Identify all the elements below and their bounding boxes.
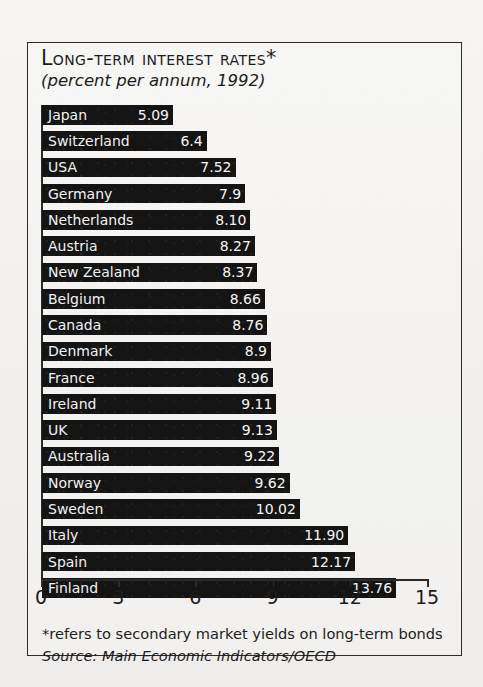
bar: Canada8.76 — [42, 315, 267, 335]
bar: Italy11.90 — [42, 526, 348, 546]
bar-category-label: France — [48, 371, 95, 385]
bar-category-label: Denmark — [48, 344, 112, 358]
bar: Ireland9.11 — [42, 394, 276, 414]
bar-category-label: Norway — [48, 476, 101, 490]
chart-subtitle: (percent per annum, 1992) — [41, 71, 453, 92]
bar-category-label: Australia — [48, 449, 110, 463]
bar-row: Sweden10.02 — [42, 499, 449, 519]
bar: Netherlands8.10 — [42, 210, 250, 230]
x-axis-tick-label: 0 — [35, 588, 47, 607]
bar-series: Japan5.09Switzerland6.4USA7.52Germany7.9… — [42, 105, 449, 579]
bar-row: Spain12.17 — [42, 552, 449, 572]
bar-value-label: 8.96 — [237, 371, 268, 385]
bar-value-label: 11.90 — [304, 528, 344, 542]
x-axis-line — [41, 579, 427, 581]
title-block: Long-term Interest Rates* (percent per a… — [41, 47, 453, 92]
bar: New Zealand8.37 — [42, 263, 257, 283]
bar-value-label: 8.9 — [245, 344, 267, 358]
bar-value-label: 9.11 — [241, 397, 272, 411]
bar-category-label: Switzerland — [48, 134, 130, 148]
bar: Belgium8.66 — [42, 289, 265, 309]
bar: France8.96 — [42, 368, 273, 388]
bar-category-label: Spain — [48, 555, 87, 569]
bar-category-label: UK — [48, 423, 67, 437]
x-axis-tick-label: 9 — [267, 588, 279, 607]
bar-row: New Zealand8.37 — [42, 263, 449, 283]
x-axis-tick-label: 6 — [189, 588, 201, 607]
bar: Norway9.62 — [42, 473, 290, 493]
bar-category-label: USA — [48, 160, 77, 174]
bar-row: Germany7.9 — [42, 184, 449, 204]
bar: Japan5.09 — [42, 105, 173, 125]
bar-value-label: 6.4 — [180, 134, 202, 148]
bar: Denmark8.9 — [42, 342, 271, 362]
bar-row: Netherlands8.10 — [42, 210, 449, 230]
bar-row: UK9.13 — [42, 420, 449, 440]
x-axis-tick-label: 12 — [338, 588, 362, 607]
plot-area: Japan5.09Switzerland6.4USA7.52Germany7.9… — [41, 105, 449, 579]
bar-row: Japan5.09 — [42, 105, 449, 125]
bar-row: Norway9.62 — [42, 473, 449, 493]
x-axis-tick-label: 15 — [415, 588, 439, 607]
bar: Switzerland6.4 — [42, 131, 207, 151]
bar-row: Australia9.22 — [42, 447, 449, 467]
bar: Germany7.9 — [42, 184, 245, 204]
bar-value-label: 7.9 — [219, 187, 241, 201]
chart-figure: Long-term Interest Rates* (percent per a… — [27, 42, 462, 656]
footnote-text: *refers to secondary market yields on lo… — [42, 625, 453, 644]
bar-row: Switzerland6.4 — [42, 131, 449, 151]
bar-category-label: Japan — [48, 108, 87, 122]
bar-category-label: New Zealand — [48, 265, 140, 279]
bar-row: France8.96 — [42, 368, 449, 388]
x-axis-tick-label: 3 — [112, 588, 124, 607]
bar-category-label: Sweden — [48, 502, 103, 516]
bar-category-label: Italy — [48, 528, 78, 542]
bar-value-label: 10.02 — [256, 502, 296, 516]
bar-category-label: Belgium — [48, 292, 105, 306]
bar-value-label: 9.62 — [254, 476, 285, 490]
bar-row: Belgium8.66 — [42, 289, 449, 309]
bar-value-label: 8.10 — [215, 213, 246, 227]
bar-value-label: 8.66 — [230, 292, 261, 306]
footnotes: *refers to secondary market yields on lo… — [42, 625, 453, 666]
bar-category-label: Netherlands — [48, 213, 133, 227]
bar: Australia9.22 — [42, 447, 279, 467]
x-axis: 03691215 — [41, 579, 449, 623]
bar-category-label: Ireland — [48, 397, 96, 411]
bar-value-label: 9.22 — [244, 449, 275, 463]
bar: Sweden10.02 — [42, 499, 300, 519]
bar: Spain12.17 — [42, 552, 355, 572]
bar-value-label: 9.13 — [242, 423, 273, 437]
bar-row: Austria8.27 — [42, 236, 449, 256]
bar-value-label: 7.52 — [200, 160, 231, 174]
bar-value-label: 8.37 — [222, 265, 253, 279]
bar-category-label: Germany — [48, 187, 112, 201]
bar: UK9.13 — [42, 420, 277, 440]
bar-value-label: 12.17 — [311, 555, 351, 569]
bar-value-label: 8.76 — [232, 318, 263, 332]
bar: Austria8.27 — [42, 236, 255, 256]
bar-row: Italy11.90 — [42, 526, 449, 546]
bar-row: Denmark8.9 — [42, 342, 449, 362]
bar-category-label: Austria — [48, 239, 97, 253]
bar-row: Canada8.76 — [42, 315, 449, 335]
bar-value-label: 8.27 — [220, 239, 251, 253]
bar-value-label: 5.09 — [138, 108, 169, 122]
bar-category-label: Canada — [48, 318, 101, 332]
source-text: Source: Main Economic Indicators/OECD — [42, 646, 453, 666]
bar-row: Ireland9.11 — [42, 394, 449, 414]
bar: USA7.52 — [42, 158, 236, 178]
bar-row: USA7.52 — [42, 158, 449, 178]
chart-title: Long-term Interest Rates* — [41, 47, 453, 70]
